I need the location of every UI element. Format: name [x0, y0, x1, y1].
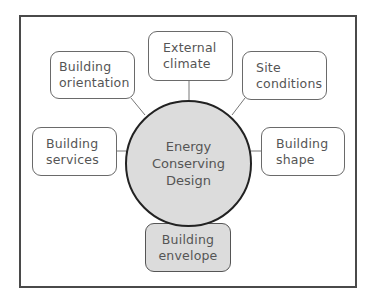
connector-building-orientation: [131, 98, 145, 115]
hub-label-line: Design: [166, 172, 211, 189]
hub-label-line: Conserving: [152, 155, 225, 172]
node-label-line: services: [46, 152, 116, 168]
node-building-orientation: Building orientation: [50, 51, 135, 99]
node-label-line: orientation: [59, 75, 134, 91]
node-building-shape: Building shape: [261, 127, 345, 176]
hub-label-line: Energy: [166, 138, 212, 155]
node-label-line: Site: [256, 60, 326, 76]
node-building-services: Building services: [32, 127, 117, 176]
node-label-line: Building: [162, 232, 214, 248]
node-site-conditions: Site conditions: [242, 51, 327, 100]
connector-site-conditions: [232, 98, 245, 115]
node-label-line: climate: [163, 56, 232, 72]
node-label-line: Building: [59, 59, 134, 75]
diagram-canvas: External climate Building orientation Si…: [0, 0, 371, 297]
node-label-line: shape: [276, 152, 344, 168]
hub-energy-conserving-design: Energy Conserving Design: [125, 100, 252, 227]
node-label-line: envelope: [158, 248, 217, 264]
node-label-line: External: [163, 40, 232, 56]
node-label-line: Building: [276, 136, 344, 152]
node-label-line: conditions: [256, 76, 326, 92]
node-label-line: Building: [46, 136, 116, 152]
node-external-climate: External climate: [148, 31, 233, 81]
node-building-envelope: Building envelope: [145, 223, 231, 272]
